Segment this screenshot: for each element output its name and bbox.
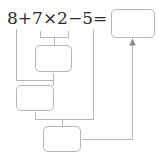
- arrow-head-icon: [129, 39, 136, 46]
- step3-box[interactable]: [43, 126, 81, 152]
- multiply-bracket: [41, 31, 69, 38]
- answer-box[interactable]: [111, 9, 155, 38]
- step1-box[interactable]: [35, 45, 72, 72]
- answer-feed-wire: [82, 45, 133, 140]
- order-of-operations-worksheet: 8+7×2−5=: [0, 0, 159, 163]
- step2-output-wire: [36, 112, 94, 120]
- step2-box[interactable]: [16, 85, 54, 111]
